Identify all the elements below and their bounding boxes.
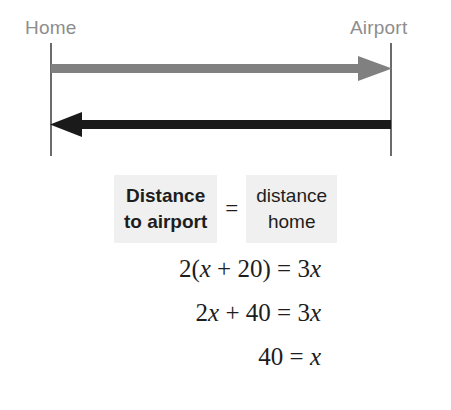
solution-work: Distance to airport = distance home 2(x …: [0, 175, 451, 369]
distance-to-airport-line-2: to airport: [124, 209, 207, 235]
equation-step-2: 2x + 40 = 3x: [196, 300, 321, 325]
trip-diagram: Home Airport: [0, 0, 451, 172]
equation-step-1-part-a: 2(: [179, 255, 200, 282]
distance-to-airport-line-1: Distance: [124, 183, 207, 209]
equation-step-3-variable-1: x: [310, 343, 321, 370]
equation-step-1-variable-2: x: [310, 255, 321, 282]
equation-step-3-part-a: 40 =: [258, 343, 310, 370]
word-equation-equals-sign: =: [223, 196, 240, 222]
distance-home-line-2: home: [256, 209, 327, 235]
distance-home-box: distance home: [246, 175, 337, 243]
equation-step-list: 2(x + 20) = 3x 2x + 40 = 3x 40 = x: [0, 256, 451, 369]
equation-step-1-variable-1: x: [200, 255, 211, 282]
equation-step-2-part-a: 2: [196, 299, 209, 326]
arrow-left-icon: [0, 0, 451, 172]
equation-step-3: 40 = x: [258, 344, 321, 369]
distance-to-airport-box: Distance to airport: [114, 175, 217, 243]
word-equation: Distance to airport = distance home: [0, 175, 451, 243]
equation-step-1-part-b: + 20) = 3: [211, 255, 310, 282]
equation-step-2-variable-1: x: [208, 299, 219, 326]
equation-step-2-part-b: + 40 = 3: [219, 299, 310, 326]
distance-home-line-1: distance: [256, 183, 327, 209]
equation-step-1: 2(x + 20) = 3x: [179, 256, 321, 281]
equation-step-2-variable-2: x: [310, 299, 321, 326]
